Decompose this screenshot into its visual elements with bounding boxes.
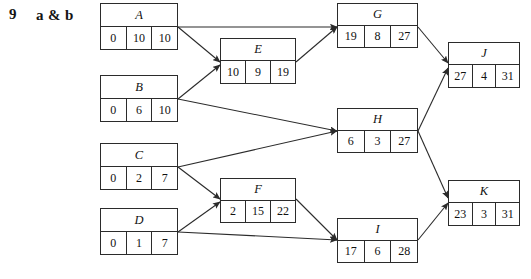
activity-node-cell: 2	[221, 201, 246, 222]
activity-node-d: D017	[100, 208, 178, 255]
activity-node-cell: 10	[152, 27, 177, 49]
activity-node-cells: 017	[101, 232, 177, 254]
activity-node-cell: 10	[152, 99, 177, 121]
question-number: 9	[9, 6, 17, 23]
activity-node-a: A01010	[100, 3, 178, 50]
edge-b-to-e	[178, 65, 220, 99]
activity-node-cell: 27	[449, 65, 473, 87]
activity-node-cells: 027	[101, 167, 177, 189]
activity-node-cell: 28	[391, 241, 417, 262]
activity-node-cell: 3	[473, 203, 497, 225]
activity-node-cell: 19	[338, 26, 365, 47]
activity-node-cell: 3	[365, 131, 392, 152]
activity-node-cell: 1	[127, 232, 153, 254]
activity-node-label: C	[101, 144, 177, 167]
activity-node-cell: 27	[391, 131, 417, 152]
edge-c-to-h	[178, 131, 337, 167]
edge-f-to-i	[296, 199, 337, 240]
activity-node-cell: 17	[338, 241, 365, 262]
activity-node-cells: 6327	[338, 131, 417, 152]
activity-node-cells: 0610	[101, 99, 177, 121]
activity-node-f: F21522	[220, 178, 296, 223]
activity-node-cells: 17628	[338, 241, 417, 262]
activity-node-cell: 27	[391, 26, 417, 47]
activity-node-cell: 0	[101, 27, 127, 49]
edge-d-to-i	[178, 232, 337, 240]
edge-d-to-f	[178, 202, 220, 232]
activity-node-cell: 4	[473, 65, 497, 87]
activity-node-cell: 22	[271, 201, 295, 222]
activity-node-i: I17628	[337, 218, 418, 263]
activity-node-cells: 19827	[338, 26, 417, 47]
activity-node-cell: 19	[271, 61, 295, 83]
activity-node-cell: 9	[246, 61, 271, 83]
edge-h-to-k	[418, 131, 448, 198]
activity-node-cell: 31	[496, 203, 519, 225]
activity-node-label: G	[338, 4, 417, 26]
activity-node-cells: 01010	[101, 27, 177, 49]
activity-node-label: J	[449, 43, 519, 65]
activity-node-j: J27431	[448, 42, 520, 88]
activity-node-cell: 10	[221, 61, 246, 83]
edge-e-to-g	[296, 27, 337, 62]
activity-node-cell: 7	[152, 232, 177, 254]
activity-node-cell: 0	[101, 99, 127, 121]
activity-node-cell: 0	[101, 232, 127, 254]
activity-node-cells: 10919	[221, 61, 295, 83]
activity-node-cells: 27431	[449, 65, 519, 87]
activity-node-cell: 8	[365, 26, 392, 47]
activity-node-cell: 0	[101, 167, 127, 189]
activity-node-cells: 21522	[221, 201, 295, 222]
activity-node-cell: 2	[127, 167, 153, 189]
activity-node-label: H	[338, 109, 417, 131]
activity-node-cell: 31	[496, 65, 519, 87]
activity-node-label: F	[221, 179, 295, 201]
question-parts-label: a & b	[36, 7, 74, 24]
activity-node-b: B0610	[100, 75, 178, 122]
activity-node-h: H6327	[337, 108, 418, 153]
activity-node-cell: 6	[338, 131, 365, 152]
edge-g-to-j	[418, 27, 448, 63]
edge-i-to-k	[418, 203, 448, 240]
activity-node-cell: 7	[152, 167, 177, 189]
activity-node-label: D	[101, 209, 177, 232]
activity-node-label: B	[101, 76, 177, 99]
activity-node-cell: 6	[127, 99, 153, 121]
network-diagram-page: 9 a & b A01010B0610C027D017E10919F21522G…	[0, 0, 531, 279]
edge-c-to-f	[178, 167, 220, 199]
activity-node-cell: 15	[246, 201, 271, 222]
activity-node-k: K23331	[448, 180, 520, 226]
edge-a-to-e	[178, 27, 220, 62]
activity-node-cell: 23	[449, 203, 473, 225]
activity-node-label: A	[101, 4, 177, 27]
activity-node-g: G19827	[337, 3, 418, 48]
activity-node-c: C027	[100, 143, 178, 190]
activity-node-cell: 6	[365, 241, 392, 262]
activity-node-label: I	[338, 219, 417, 241]
activity-node-label: E	[221, 39, 295, 61]
activity-node-label: K	[449, 181, 519, 203]
edge-b-to-h	[178, 99, 337, 131]
activity-node-e: E10919	[220, 38, 296, 84]
activity-node-cells: 23331	[449, 203, 519, 225]
edge-h-to-j	[418, 68, 448, 131]
activity-node-cell: 10	[127, 27, 153, 49]
